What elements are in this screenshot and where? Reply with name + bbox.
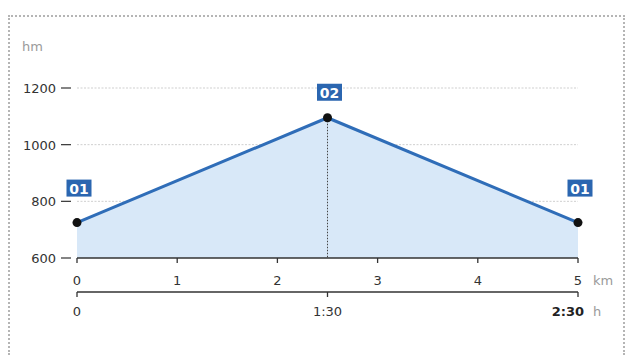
x-axis-unit-label: km [593,273,613,288]
time-tick-label: 0 [73,304,81,319]
waypoint-badge-label: 01 [69,181,88,197]
waypoint-dot [574,218,583,227]
x-tick-label: 4 [474,273,482,288]
time-tick-label: 1:30 [313,304,342,319]
y-tick-label: 1000 [23,138,56,153]
y-tick-label: 600 [31,251,56,266]
y-axis-ticks: 12001000800600 [23,81,71,266]
waypoint-badge-label: 01 [570,181,589,197]
x-tick-label: 0 [73,273,81,288]
y-tick-label: 1200 [23,81,56,96]
y-axis-unit-label: hm [22,39,43,54]
distance-axis: 012345 [73,258,582,288]
time-axis-unit-label: h [593,304,601,319]
x-tick-label: 1 [173,273,181,288]
waypoint-badge-label: 02 [320,85,339,101]
x-tick-label: 2 [273,273,281,288]
waypoint-dot [323,113,332,122]
x-tick-label: 3 [373,273,381,288]
y-tick-label: 800 [31,194,56,209]
x-tick-label: 5 [574,273,582,288]
elevation-area [77,118,578,258]
time-tick-label: 2:30 [552,304,584,319]
waypoint-dot [73,218,82,227]
time-axis: 01:302:30 [73,292,584,319]
